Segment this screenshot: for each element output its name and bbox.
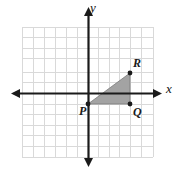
point-Q-label: Q <box>133 106 142 118</box>
axes <box>16 12 157 162</box>
y-axis-label: y <box>90 1 96 14</box>
coordinate-plane-svg <box>0 0 179 172</box>
point-R-label: R <box>133 57 141 69</box>
x-axis-arrow-right <box>153 89 162 98</box>
x-axis-label: x <box>166 82 172 95</box>
point-Q-dot <box>128 102 133 107</box>
point-P-label: P <box>79 105 86 117</box>
coordinate-plane-figure: y x P Q R <box>0 0 179 172</box>
point-R-dot <box>128 71 133 76</box>
y-axis-arrow-down <box>84 158 93 167</box>
x-axis-arrow-left <box>11 89 20 98</box>
